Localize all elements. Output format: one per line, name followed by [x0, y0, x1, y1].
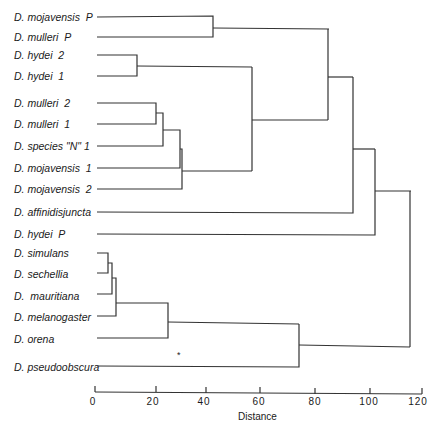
x-tick-label: 100 [359, 396, 379, 407]
x-tick-label: 40 [197, 396, 210, 407]
x-axis-title: Distance [238, 411, 277, 422]
x-tick-label: 60 [252, 396, 265, 407]
asterisk-annotation: * [177, 350, 181, 360]
x-tick-label: 120 [408, 396, 428, 407]
x-axis [95, 386, 422, 394]
dendrogram-tree [0, 0, 433, 429]
x-tick-label: 0 [90, 396, 97, 407]
x-tick-label: 80 [308, 396, 321, 407]
x-tick-label: 20 [146, 396, 159, 407]
